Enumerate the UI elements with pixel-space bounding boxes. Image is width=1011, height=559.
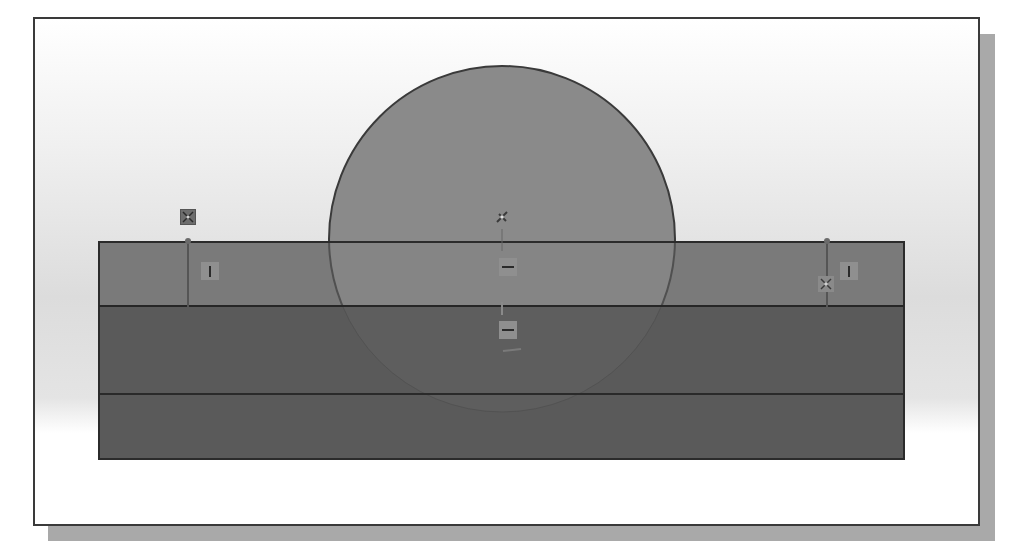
horizontal-constraint-icon (502, 266, 514, 268)
sketch-viewport[interactable] (33, 17, 980, 526)
fix-icon (181, 210, 195, 224)
sketch-canvas[interactable] (35, 19, 978, 524)
vertical-constraint-right[interactable] (840, 262, 858, 280)
vertical-constraint-left[interactable] (201, 262, 219, 280)
horizontal-constraint-upper[interactable] (499, 258, 517, 276)
figure-stage (0, 0, 1011, 559)
vertical-constraint-icon (848, 266, 850, 277)
fix-constraint-right[interactable] (818, 276, 834, 292)
horizontal-constraint-lower[interactable] (499, 321, 517, 339)
fix-icon (818, 276, 834, 292)
center-point-constraint[interactable] (494, 209, 510, 225)
vertical-constraint-icon (209, 266, 211, 277)
horizontal-constraint-icon (502, 329, 514, 331)
point-icon (494, 209, 510, 225)
fix-constraint-left[interactable] (180, 209, 196, 225)
right-vertical-endpoint[interactable] (824, 238, 830, 244)
left-vertical-endpoint[interactable] (185, 238, 191, 244)
